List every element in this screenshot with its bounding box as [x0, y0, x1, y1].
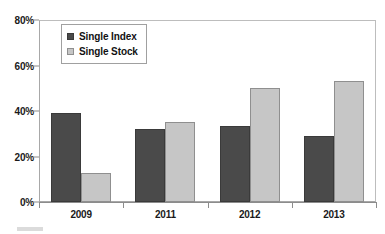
bar-group	[304, 20, 364, 202]
y-axis: 0%20%40%60%80%	[0, 0, 38, 234]
bar[interactable]	[250, 88, 280, 202]
legend: Single IndexSingle Stock	[61, 24, 147, 64]
y-tick-label: 80%	[15, 15, 34, 26]
y-tick-label: 60%	[15, 60, 34, 71]
y-tick-label: 40%	[15, 106, 34, 117]
legend-label: Single Index	[79, 31, 137, 42]
x-tick-mark	[39, 202, 40, 208]
legend-swatch-icon	[67, 33, 74, 40]
bar[interactable]	[51, 113, 81, 202]
bar[interactable]	[165, 122, 195, 202]
legend-item[interactable]: Single Index	[67, 29, 138, 44]
bar[interactable]	[220, 126, 250, 202]
x-tick-mark	[292, 202, 293, 208]
y-tick-label: 20%	[15, 151, 34, 162]
bar[interactable]	[135, 129, 165, 202]
x-tick-mark	[123, 202, 124, 208]
legend-swatch-icon	[67, 48, 74, 55]
x-tick-label-2013: 2013	[323, 209, 344, 220]
bar-group	[220, 20, 280, 202]
legend-item[interactable]: Single Stock	[67, 44, 138, 59]
x-tick-label-2009: 2009	[70, 209, 91, 220]
bar-chart: 0%20%40%60%80% Single IndexSingle Stock …	[0, 0, 385, 234]
x-tick-mark	[376, 202, 377, 208]
bar[interactable]	[81, 173, 111, 202]
y-tick-label: 0%	[20, 197, 34, 208]
legend-label: Single Stock	[79, 46, 138, 57]
x-tick-label-2012: 2012	[239, 209, 260, 220]
x-tick-mark	[208, 202, 209, 208]
bar[interactable]	[334, 81, 364, 202]
page-scan-artifact	[17, 227, 43, 231]
x-tick-label-2011: 2011	[155, 209, 176, 220]
bar[interactable]	[304, 136, 334, 202]
